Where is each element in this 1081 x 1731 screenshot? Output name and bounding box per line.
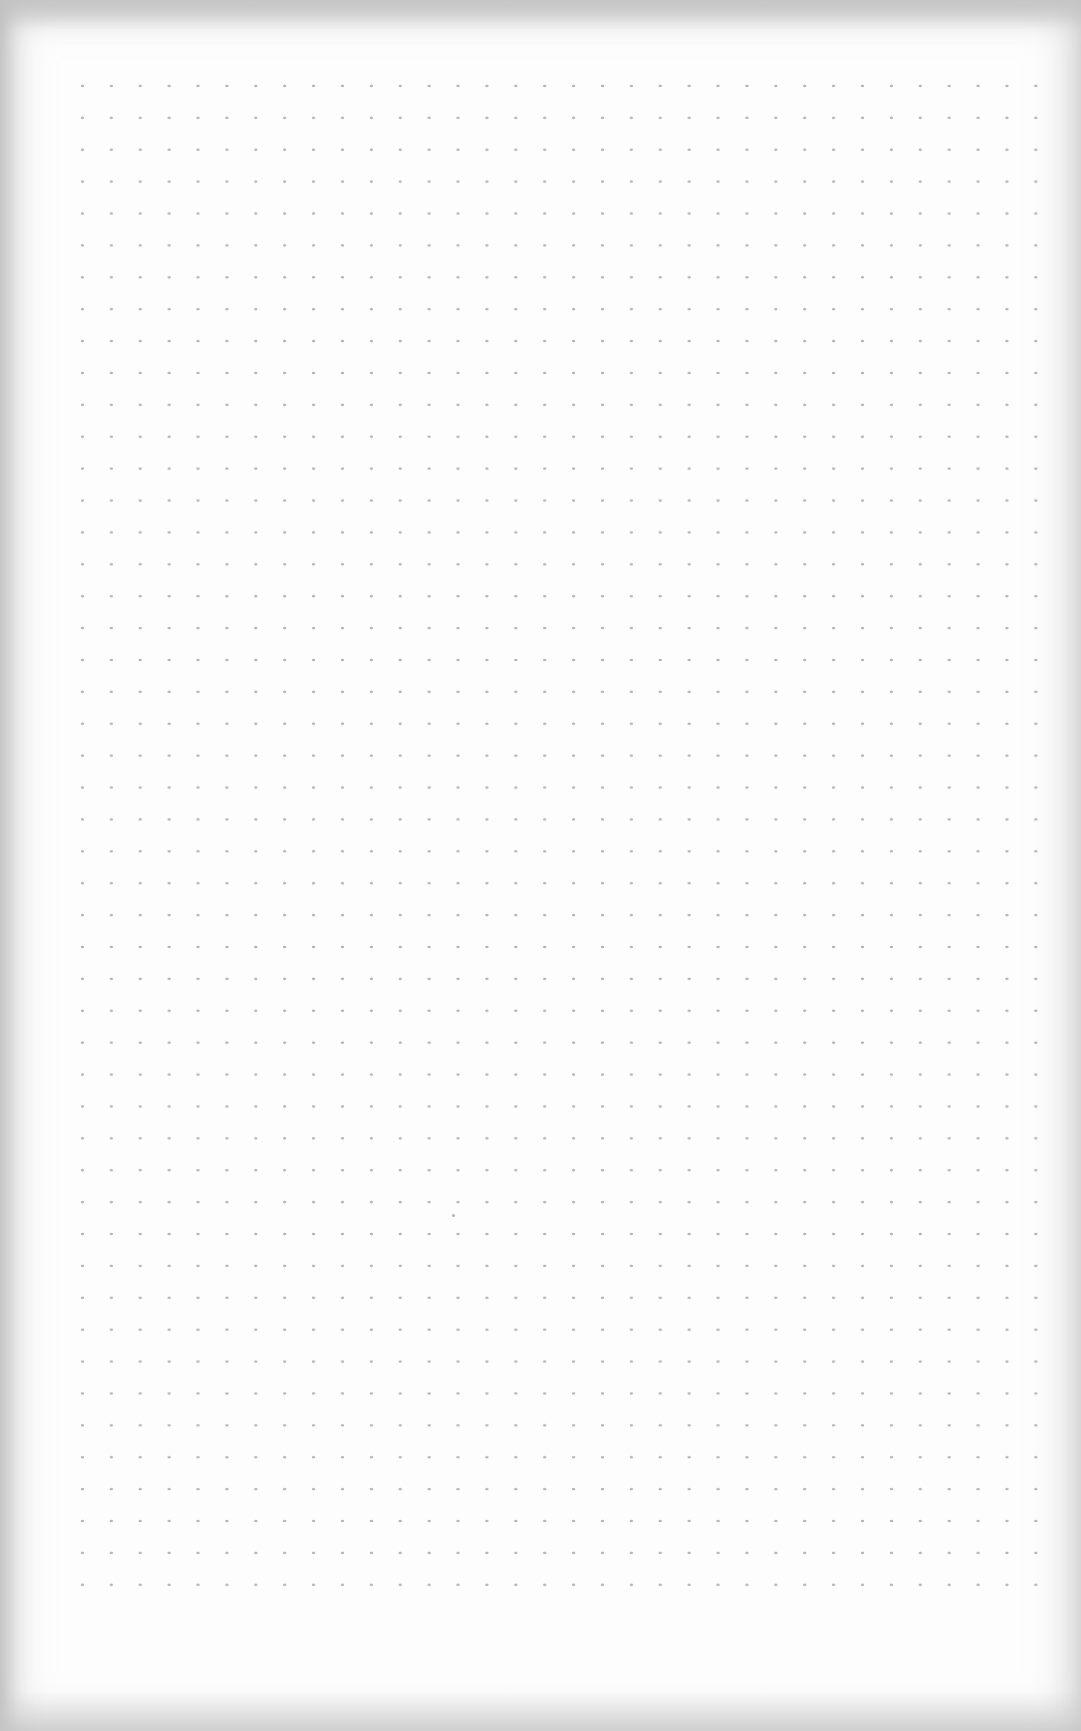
dot-grid-paper <box>0 0 1081 1731</box>
paper-speck <box>452 1214 455 1217</box>
dot-grid-pattern <box>68 70 1058 1610</box>
